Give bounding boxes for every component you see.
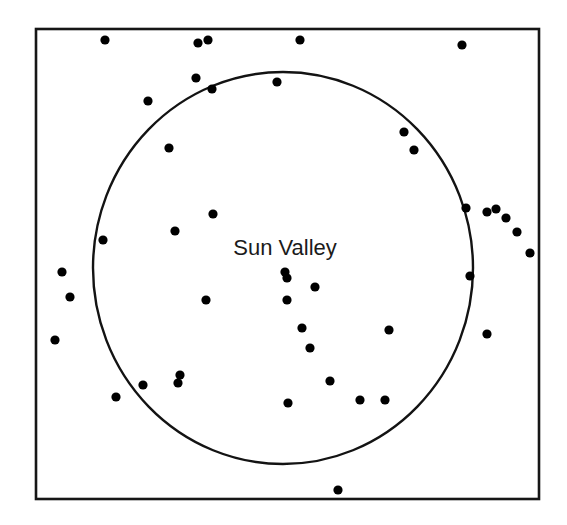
data-point [461,203,470,212]
data-point [191,73,200,82]
scatter-figure: Sun Valley [0,0,567,525]
data-point [57,267,66,276]
data-point [409,145,418,154]
data-point [111,392,120,401]
data-point [457,40,466,49]
data-point [482,207,491,216]
data-point [399,127,408,136]
data-point [98,235,107,244]
data-point [170,226,179,235]
data-point [193,38,202,47]
data-point [50,335,59,344]
data-point [482,329,491,338]
data-point [297,323,306,332]
region-label-sun-valley: Sun Valley [233,235,337,260]
data-point [283,398,292,407]
data-point [333,485,342,494]
data-point [282,273,291,282]
data-point [465,271,474,280]
data-point [355,395,364,404]
data-point [272,77,281,86]
data-point [207,84,216,93]
data-point [380,395,389,404]
data-point [143,96,152,105]
data-point [175,370,184,379]
data-point [295,35,304,44]
data-point [208,209,217,218]
data-point [201,295,210,304]
data-point [501,213,510,222]
data-point [164,143,173,152]
data-point [491,204,500,213]
data-point [138,380,147,389]
data-point [305,343,314,352]
data-point [173,378,182,387]
data-point [325,376,334,385]
data-point [282,295,291,304]
data-point [525,248,534,257]
plot-border [36,29,539,499]
data-point [203,35,212,44]
data-point [512,227,521,236]
data-point [100,35,109,44]
data-point [384,325,393,334]
data-point [310,282,319,291]
scatter-plot-canvas: Sun Valley [0,0,567,525]
data-point [65,292,74,301]
